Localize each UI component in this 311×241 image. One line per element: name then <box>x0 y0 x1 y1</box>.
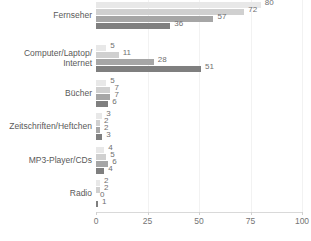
bar-row: 2 <box>96 180 302 186</box>
bar-group: 3223 <box>96 113 302 141</box>
bar-row: 3 <box>96 113 302 119</box>
bar-value-label: 5 <box>110 41 115 50</box>
bar-row: 72 <box>96 9 302 15</box>
bar-value-label: 3 <box>106 130 111 139</box>
bar-value-label: 6 <box>112 157 117 166</box>
bar <box>96 154 106 160</box>
x-tick-mark <box>148 212 149 215</box>
category-label: Zeitschriften/Heftchen <box>0 121 92 131</box>
bar-chart: FernseherComputer/Laptop/ InternetBücher… <box>0 0 311 241</box>
bar-row: 51 <box>96 66 302 72</box>
bar-value-label: 36 <box>174 19 183 28</box>
bar-value-label: 51 <box>205 62 214 71</box>
x-tick-label: 0 <box>94 216 99 226</box>
bar-value-label: 28 <box>158 55 167 64</box>
x-axis-labels: 0255075100 <box>96 216 302 232</box>
bar-value-label: 57 <box>217 12 226 21</box>
bar-group: 80725736 <box>96 2 302 30</box>
bar-row: 36 <box>96 23 302 29</box>
bar <box>96 127 100 133</box>
bar <box>96 59 154 65</box>
bar-row: 2 <box>96 127 302 133</box>
bar-row: 6 <box>96 161 302 167</box>
bar <box>96 161 108 167</box>
category-label: MP3-Player/CDs <box>0 155 92 165</box>
bar-row: 2 <box>96 120 302 126</box>
bar <box>96 94 110 100</box>
bar <box>96 45 106 51</box>
bar-row: 7 <box>96 94 302 100</box>
bar <box>96 16 213 22</box>
x-tick-mark <box>96 212 97 215</box>
bar-value-label: 4 <box>108 164 113 173</box>
y-axis-labels: FernseherComputer/Laptop/ InternetBücher… <box>0 0 92 212</box>
bar-row: 1 <box>96 201 302 207</box>
bar-row: 6 <box>96 101 302 107</box>
bar-group: 4564 <box>96 147 302 175</box>
x-tick-mark <box>302 212 303 215</box>
x-tick-mark <box>199 212 200 215</box>
bar <box>96 52 119 58</box>
bar-value-label: 72 <box>248 5 257 14</box>
bar <box>96 113 102 119</box>
bar-row: 0 <box>96 194 302 200</box>
bar-row: 28 <box>96 59 302 65</box>
bar <box>96 23 170 29</box>
bar-row: 80 <box>96 2 302 8</box>
bar <box>96 168 104 174</box>
category-label: Radio <box>0 188 92 198</box>
bar-group: 5112851 <box>96 45 302 73</box>
bar <box>96 201 98 207</box>
bar <box>96 80 106 86</box>
bar-row: 11 <box>96 52 302 58</box>
bar <box>96 2 261 8</box>
bar-row: 3 <box>96 134 302 140</box>
category-label: Fernseher <box>0 10 92 20</box>
bar-value-label: 1 <box>102 197 107 206</box>
bar <box>96 66 201 72</box>
bar-row: 5 <box>96 80 302 86</box>
bar-row: 5 <box>96 154 302 160</box>
bar-row: 4 <box>96 147 302 153</box>
bar <box>96 101 108 107</box>
bar-row: 7 <box>96 87 302 93</box>
bar-value-label: 6 <box>112 97 117 106</box>
bar <box>96 147 104 153</box>
bar-group: 2201 <box>96 180 302 208</box>
category-label: Bücher <box>0 88 92 98</box>
bar-group: 5776 <box>96 80 302 108</box>
x-tick-label: 25 <box>143 216 152 226</box>
bar <box>96 87 110 93</box>
bar-value-label: 11 <box>123 48 132 57</box>
bar-value-label: 80 <box>265 0 274 7</box>
bar-row: 57 <box>96 16 302 22</box>
category-label: Computer/Laptop/ Internet <box>0 48 92 68</box>
bar-row: 2 <box>96 187 302 193</box>
x-tick-mark <box>251 212 252 215</box>
plot-area: 8072573651128515776322345642201 <box>96 0 302 212</box>
x-tick-label: 50 <box>194 216 203 226</box>
x-tick-label: 100 <box>295 216 309 226</box>
bar-row: 4 <box>96 168 302 174</box>
bar <box>96 134 102 140</box>
x-tick-label: 75 <box>246 216 255 226</box>
bar <box>96 180 100 186</box>
gridline-100 <box>302 0 303 212</box>
bar <box>96 120 100 126</box>
